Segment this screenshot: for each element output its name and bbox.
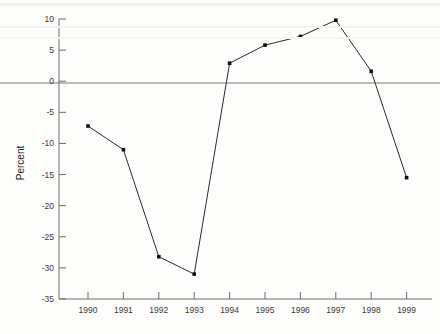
data-point-marker bbox=[299, 35, 303, 39]
y-axis-tick-label: 10 bbox=[45, 14, 55, 24]
x-axis-tick-label: 1995 bbox=[256, 305, 275, 315]
y-axis-ticks: 1050-5-10-15-20-25-30-35 bbox=[42, 14, 66, 304]
x-axis-tick-label: 1991 bbox=[114, 305, 133, 315]
y-axis-title: Percent bbox=[15, 146, 26, 181]
line-chart-svg: 1050-5-10-15-20-25-30-35 199019911992199… bbox=[0, 0, 440, 334]
x-axis-tick-label: 1994 bbox=[220, 305, 239, 315]
x-axis-tick-label: 1999 bbox=[397, 305, 416, 315]
y-axis-tick-label: 5 bbox=[49, 45, 54, 55]
data-point-marker bbox=[334, 18, 338, 22]
x-axis-ticks: 1990199119921993199419951996199719981999 bbox=[79, 292, 417, 315]
data-point-marker bbox=[122, 148, 126, 152]
x-axis-tick-label: 1990 bbox=[79, 305, 98, 315]
y-axis-tick-label: -25 bbox=[42, 232, 55, 242]
y-axis-tick-label: 0 bbox=[49, 76, 54, 86]
y-axis-tick-label: -30 bbox=[42, 263, 55, 273]
x-axis-tick-label: 1998 bbox=[362, 305, 381, 315]
y-axis-tick-label: -5 bbox=[46, 107, 54, 117]
data-point-marker bbox=[228, 61, 232, 65]
data-point-marker bbox=[405, 176, 409, 180]
x-axis-tick-label: 1997 bbox=[326, 305, 345, 315]
data-series-line bbox=[88, 20, 407, 274]
y-axis-tick-label: -10 bbox=[42, 138, 55, 148]
data-point-marker bbox=[192, 272, 196, 276]
data-point-marker bbox=[86, 124, 90, 128]
x-axis-tick-label: 1996 bbox=[291, 305, 310, 315]
data-point-marker bbox=[263, 43, 267, 47]
data-point-marker bbox=[157, 255, 161, 259]
chart-container: 1050-5-10-15-20-25-30-35 199019911992199… bbox=[0, 0, 440, 334]
data-point-markers bbox=[86, 18, 408, 275]
y-axis-tick-label: -35 bbox=[42, 294, 55, 304]
x-axis-tick-label: 1992 bbox=[149, 305, 168, 315]
y-axis-tick-label: -15 bbox=[42, 170, 55, 180]
y-axis-tick-label: -20 bbox=[42, 201, 55, 211]
x-axis-tick-label: 1993 bbox=[185, 305, 204, 315]
data-point-marker bbox=[369, 69, 373, 73]
